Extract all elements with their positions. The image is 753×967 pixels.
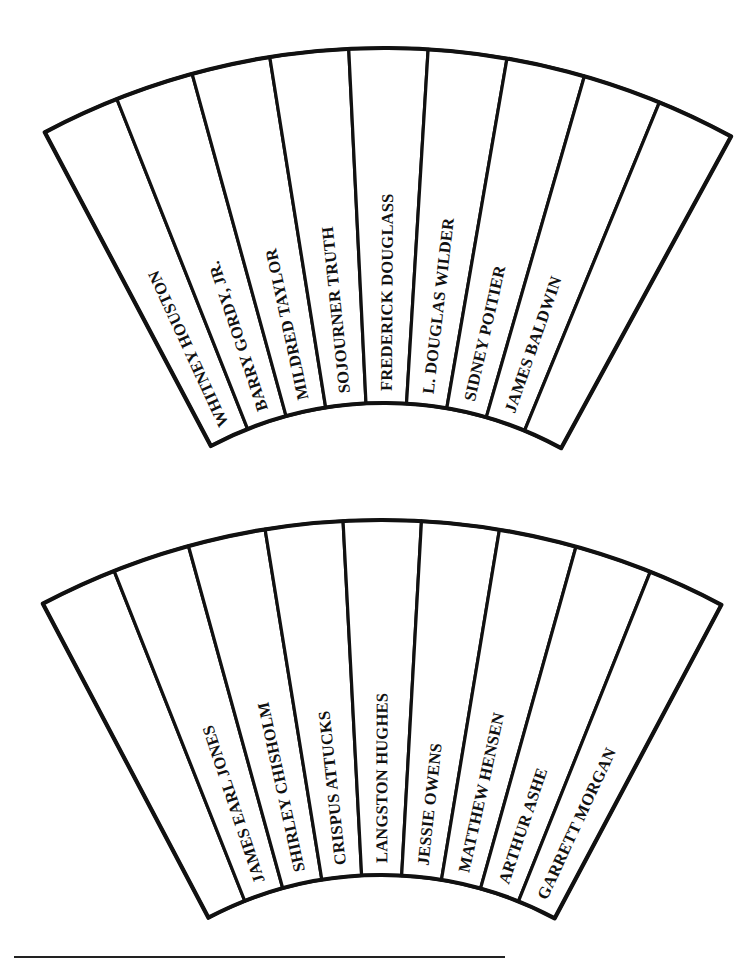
name-label: FREDERICK DOUGLASS — [377, 193, 397, 391]
fan-worksheet: WHITNEY HOUSTONBARRY GORDY, JR.MILDRED T… — [0, 0, 753, 967]
name-label: LANGSTON HUGHES — [372, 693, 391, 863]
top-name-fan: WHITNEY HOUSTONBARRY GORDY, JR.MILDRED T… — [45, 48, 731, 448]
bottom-name-fan: JAMES EARL JONESSHIRLEY CHISHOLMCRISPUS … — [43, 520, 721, 918]
